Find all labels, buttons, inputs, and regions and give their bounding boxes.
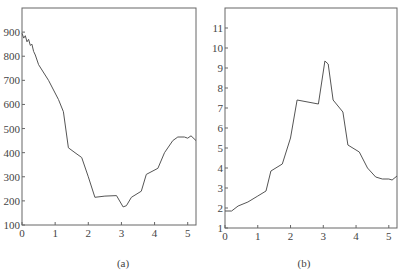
y-tick-label: 1: [218, 222, 224, 234]
y-tick-label: 3: [218, 182, 224, 194]
chart-b: 0123451234567891011(b): [212, 8, 397, 270]
figure: 012345100200300400500600700800900(a) 012…: [0, 0, 402, 278]
y-tick-label: 7: [218, 102, 224, 114]
data-line: [22, 33, 196, 207]
y-tick-label: 700: [4, 74, 21, 86]
chart-a: 012345100200300400500600700800900(a): [4, 8, 197, 270]
y-tick-label: 400: [4, 147, 21, 159]
y-tick-label: 9: [218, 62, 224, 74]
x-tick-label: 2: [86, 227, 92, 239]
y-tick-label: 900: [4, 26, 21, 38]
y-tick-label: 4: [218, 162, 224, 174]
y-tick-label: 200: [4, 195, 21, 207]
x-tick-label: 3: [119, 227, 125, 239]
y-tick-label: 500: [4, 123, 21, 135]
x-tick-label: 1: [255, 230, 261, 242]
y-tick-label: 8: [218, 82, 224, 94]
y-tick-label: 300: [4, 171, 21, 183]
chart-caption: (b): [298, 257, 311, 270]
y-tick-label: 11: [212, 22, 223, 34]
x-tick-label: 5: [386, 230, 392, 242]
y-tick-label: 10: [212, 42, 224, 54]
y-tick-label: 6: [218, 122, 224, 134]
x-tick-label: 4: [152, 227, 158, 239]
y-tick-label: 600: [4, 98, 21, 110]
y-tick-label: 100: [4, 219, 21, 231]
x-tick-label: 5: [185, 227, 191, 239]
plot-frame: [22, 8, 196, 225]
plot-frame: [225, 8, 397, 228]
x-tick-label: 1: [52, 227, 58, 239]
x-tick-label: 3: [321, 230, 327, 242]
x-tick-label: 2: [288, 230, 294, 242]
y-tick-label: 5: [218, 142, 224, 154]
x-tick-label: 0: [19, 227, 25, 239]
chart-caption: (a): [117, 257, 130, 270]
y-tick-label: 2: [218, 202, 224, 214]
x-tick-label: 4: [353, 230, 359, 242]
x-tick-label: 0: [222, 230, 228, 242]
y-tick-label: 800: [4, 50, 21, 62]
data-line: [225, 61, 397, 211]
